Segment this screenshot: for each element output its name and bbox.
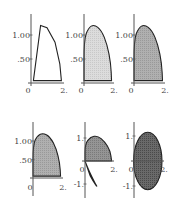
panel-bottom-middle-lower-petal [85,161,97,186]
panel-top-left-x-tick-label: 2. [60,86,68,95]
panel-bottom-right-x-tick-label: 0 [128,165,133,174]
panel-bottom-middle-x-tick-label: 0 [79,165,84,174]
panel-bottom-left-x-tick-label: 0 [27,183,32,192]
panel-top-middle-x-tick-label: 2. [110,86,118,95]
figure-panels: 1.00.5002.1.00.5002.1.00.5002.1.00.5002.… [0,0,174,201]
panel-top-right-y-tick-label: .50 [120,55,133,64]
panel-bottom-middle-y-tick-label: -1. [74,180,84,189]
panel-top-right-region [134,26,163,81]
panel-bottom-right-y-tick-label: 1. [125,132,133,141]
panel-bottom-middle-y-tick-label: 1. [76,134,84,143]
panel-bottom-left-x-tick-label: 2. [59,183,67,192]
panel-bottom-left-region [33,134,61,176]
panel-top-left-y-tick-label: .50 [17,55,30,64]
panel-top-middle-region [84,26,112,81]
panel-top-middle-y-tick-label: .50 [70,55,83,64]
panel-top-middle-y-tick-label: 1.00 [65,31,83,40]
panel-top-left-x-tick-label: 0 [25,86,30,95]
panel-bottom-middle-x-tick-label: 2. [110,165,118,174]
panel-top-right-x-tick-label: 2. [161,86,169,95]
panel-bottom-middle-region [85,136,112,161]
panel-bottom-left-y-tick-label: 1.00 [14,137,32,146]
panel-top-middle-x-tick-label: 0 [78,86,83,95]
panel-bottom-right-x-tick-label: 2. [160,165,168,174]
panel-top-left-y-tick-label: 1.00 [12,31,30,40]
panel-bottom-right-y-tick-label: -1. [123,182,133,191]
panel-top-right-y-tick-label: 1.00 [115,31,133,40]
panel-top-left-region [33,25,61,80]
panel-bottom-left-y-tick-label: .50 [19,156,32,165]
panel-top-right-x-tick-label: 0 [128,86,133,95]
